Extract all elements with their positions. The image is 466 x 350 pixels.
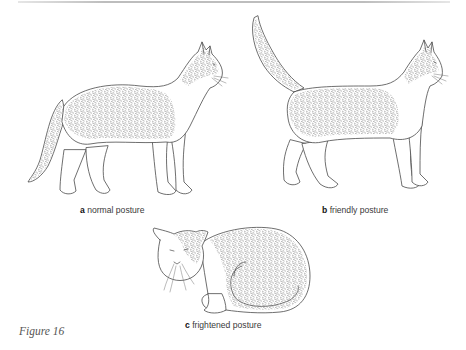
caption-text: normal posture (87, 205, 144, 215)
caption-friendly-posture: b friendly posture (322, 205, 388, 215)
caption-text: friendly posture (330, 205, 389, 215)
figure-label: Figure 16 (19, 325, 64, 337)
top-rule (18, 1, 450, 3)
caption-text: frightened posture (192, 320, 261, 330)
cat-friendly-posture-illustration (240, 10, 460, 200)
caption-letter: c (185, 320, 190, 330)
cat-frightened-posture-illustration (130, 220, 350, 320)
caption-normal-posture: a normal posture (80, 205, 145, 215)
caption-letter: a (80, 205, 85, 215)
caption-frightened-posture: c frightened posture (185, 320, 261, 330)
caption-letter: b (322, 205, 327, 215)
cat-normal-posture-illustration (20, 20, 240, 200)
